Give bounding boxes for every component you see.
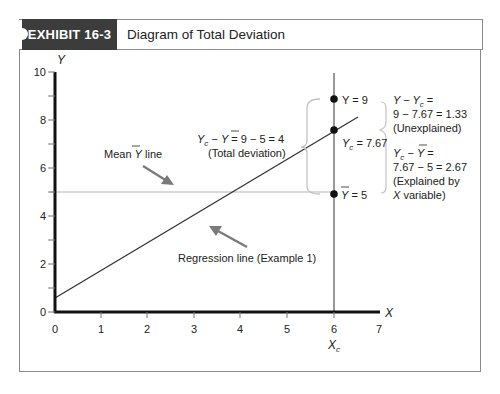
y-tick-labels: 0 2 4 6 8 10	[34, 66, 46, 318]
svg-text:(Total deviation): (Total deviation)	[208, 147, 286, 159]
svg-text:6: 6	[40, 162, 46, 174]
svg-text:7.67 − 5 = 2.67: 7.67 − 5 = 2.67	[393, 161, 467, 173]
total-deviation-annotation: Yc − Y = 9 − 5 = 4 (Total deviation)	[197, 131, 286, 159]
point-yc-label: Yc = 7.67	[342, 137, 387, 152]
svg-text:8: 8	[40, 114, 46, 126]
total-deviation-chart: 0 2 4 6 8 10 0 1 2 3 4 5 6 7 Y X Xc Y = …	[0, 0, 500, 394]
point-ybar-5	[330, 190, 338, 198]
svg-text:0: 0	[52, 323, 58, 335]
mean-line-annotation: Mean Y line	[104, 146, 162, 160]
y-axis-label: Y	[57, 53, 66, 67]
regression-arrow-icon	[209, 226, 247, 247]
svg-text:3: 3	[191, 323, 197, 335]
svg-text:2: 2	[40, 258, 46, 270]
svg-text:Yc − Y =: Yc − Y =	[393, 147, 434, 162]
x-axis-label: X	[384, 306, 394, 320]
svg-text:4: 4	[40, 210, 46, 222]
unexplained-annotation: Y − Yc = 9 − 7.67 = 1.33 (Unexplained)	[393, 94, 467, 134]
svg-text:7: 7	[376, 323, 382, 335]
svg-text:0: 0	[40, 306, 46, 318]
point-yc-7-67	[330, 126, 338, 134]
svg-text:Y − Yc =: Y − Yc =	[393, 94, 433, 109]
svg-text:(Unexplained): (Unexplained)	[393, 122, 461, 134]
svg-text:4: 4	[237, 323, 243, 335]
mean-line-arrow-icon	[143, 166, 174, 185]
svg-text:5: 5	[284, 323, 290, 335]
svg-text:Yc − Y = 9 − 5 = 4: Yc − Y = 9 − 5 = 4	[197, 133, 284, 148]
point-ybar-label: Y = 5	[341, 187, 367, 201]
svg-text:X variable): X variable)	[392, 189, 446, 201]
xc-label: Xc	[327, 338, 340, 354]
svg-text:10: 10	[34, 66, 46, 78]
svg-text:Y = 5: Y = 5	[341, 189, 367, 201]
regression-line-label: Regression line (Example 1)	[178, 252, 316, 264]
svg-text:Mean Y line: Mean Y line	[104, 148, 162, 160]
x-tick-labels: 0 1 2 3 4 5 6 7	[52, 323, 382, 335]
svg-text:2: 2	[144, 323, 150, 335]
svg-text:6: 6	[331, 323, 337, 335]
svg-text:(Explained by: (Explained by	[393, 175, 460, 187]
point-y-9	[330, 95, 338, 103]
explained-annotation: Yc − Y = 7.67 − 5 = 2.67 (Explained by X…	[392, 145, 467, 201]
svg-text:1: 1	[98, 323, 104, 335]
total-deviation-brace	[301, 99, 320, 194]
svg-text:9 − 7.67 = 1.33: 9 − 7.67 = 1.33	[393, 108, 467, 120]
point-y-label: Y = 9	[342, 94, 368, 106]
